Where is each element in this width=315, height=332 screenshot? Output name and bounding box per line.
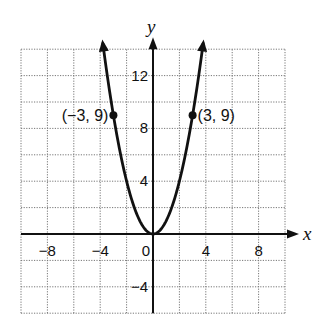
point-marker (189, 111, 197, 119)
y-tick-label: 12 (131, 67, 148, 84)
x-tick-label: 4 (202, 242, 210, 259)
x-axis-label: x (302, 223, 312, 244)
x-axis-arrow-icon (287, 230, 299, 239)
axes (21, 37, 299, 313)
curve-arrow-icon (197, 39, 207, 52)
point-label: (−3, 9) (62, 107, 109, 124)
y-tick-label: 4 (140, 172, 148, 189)
x-tick-label: 8 (254, 242, 262, 259)
x-tick-label: −4 (92, 242, 109, 259)
y-axis-arrow-icon (149, 37, 158, 49)
point-label: (3, 9) (198, 107, 235, 124)
labeled-points: (−3, 9)(3, 9) (62, 107, 235, 124)
x-tick-label: 0 (142, 242, 150, 259)
x-tick-label: −8 (39, 242, 56, 259)
y-tick-label: 8 (140, 119, 148, 136)
y-axis-label: y (145, 16, 156, 37)
curve-arrow-icon (99, 39, 109, 52)
point-marker (109, 111, 117, 119)
y-tick-label: −4 (131, 278, 148, 295)
parabola-chart: −8−4048−44812 (−3, 9)(3, 9) x y (0, 0, 315, 332)
